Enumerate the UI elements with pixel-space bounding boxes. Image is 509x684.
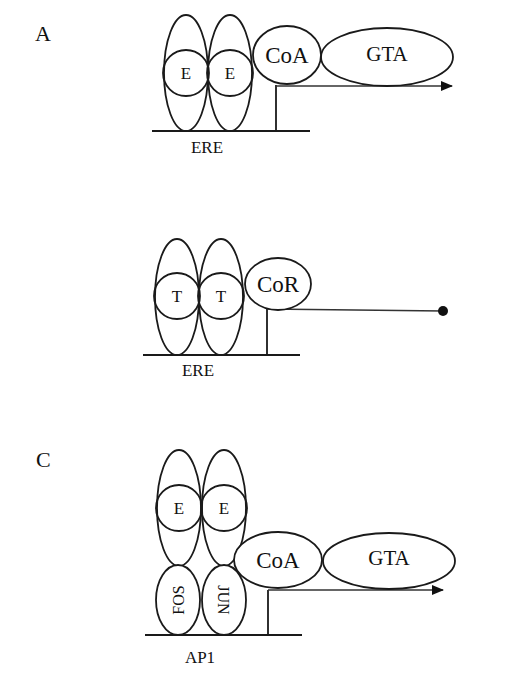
panel-a: A E E ERE GTA CoA: [35, 15, 453, 157]
panel-c-fos-label: FOS: [170, 585, 187, 614]
panel-a-ligand-left-label: E: [181, 64, 191, 83]
panel-a-ligand-right-label: E: [225, 64, 235, 83]
panel-b-corepressor-label: CoR: [257, 272, 300, 297]
panel-a-coactivator-label: CoA: [265, 43, 309, 68]
panel-b: T T ERE CoR: [143, 239, 448, 380]
panel-b-ligand-right-label: T: [216, 287, 227, 306]
panel-b-ligand-left-label: T: [172, 287, 183, 306]
panel-c-jun-label: JUN: [215, 585, 232, 615]
panel-a-binding-site-label: ERE: [191, 138, 223, 157]
panel-c-binding-site-label: AP1: [185, 648, 215, 667]
panel-b-repression-dot: [438, 306, 448, 316]
panel-c: C E E FOS JUN AP1 GTA CoA: [36, 447, 455, 667]
panel-c-ligand-left-label: E: [174, 499, 184, 518]
panel-b-repression-line: [267, 309, 443, 311]
panel-c-coactivator-label: CoA: [256, 548, 300, 573]
panel-a-gta-label: GTA: [366, 42, 408, 66]
panel-c-ligand-right-label: E: [219, 499, 229, 518]
receptor-mechanism-diagram: A E E ERE GTA CoA T T E: [0, 0, 509, 684]
panel-a-letter: A: [35, 21, 51, 46]
panel-b-binding-site-label: ERE: [182, 361, 214, 380]
panel-c-letter: C: [36, 447, 51, 472]
panel-c-gta-label: GTA: [368, 546, 410, 570]
